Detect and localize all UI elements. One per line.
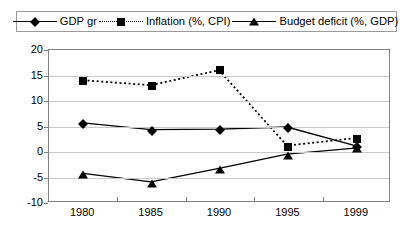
y-axis-label: 10 [3, 94, 43, 106]
chart-container: GDP gr Inflation (%, CPI) Budget deficit… [0, 0, 412, 243]
legend-label-inflation: Inflation (%, CPI) [143, 16, 233, 27]
y-axis-tick [44, 101, 48, 102]
x-axis: 19801985199019951999 [48, 206, 390, 226]
legend-item-gdp-gr[interactable]: GDP gr [13, 12, 99, 31]
legend-item-budget-deficit[interactable]: Budget deficit (%, GDP) [232, 12, 400, 31]
gridline [49, 76, 389, 77]
chart-legend: GDP gr Inflation (%, CPI) Budget deficit… [16, 11, 397, 32]
plot-area [48, 49, 390, 202]
data-point-triangle [215, 165, 225, 173]
x-axis-tick [186, 197, 187, 201]
y-axis-tick [44, 152, 48, 153]
triangle-marker-icon [232, 16, 276, 28]
data-point-triangle [78, 171, 88, 179]
legend-label-gdp-gr: GDP gr [57, 16, 99, 27]
legend-item-inflation[interactable]: Inflation (%, CPI) [99, 12, 233, 31]
data-point-square [353, 135, 361, 143]
x-axis-label: 1980 [70, 206, 94, 218]
diamond-marker-icon [13, 16, 57, 28]
x-axis-tick [323, 197, 324, 201]
y-axis-tick [44, 203, 48, 204]
data-point-triangle [147, 179, 157, 187]
y-axis-label: -5 [3, 171, 43, 183]
data-point-square [284, 143, 292, 151]
data-point-square [148, 82, 156, 90]
y-axis-label: 20 [3, 43, 43, 55]
x-axis-tick [117, 197, 118, 201]
y-axis-tick [44, 76, 48, 77]
gridline [49, 152, 389, 153]
data-point-square [216, 66, 224, 74]
square-marker-icon [99, 16, 143, 28]
y-axis-label: 5 [3, 120, 43, 132]
gridline [49, 178, 389, 179]
y-axis-tick [44, 127, 48, 128]
x-axis-tick [254, 197, 255, 201]
x-axis-label: 1985 [138, 206, 162, 218]
data-point-square [79, 77, 87, 85]
legend-label-budget-deficit: Budget deficit (%, GDP) [276, 16, 400, 27]
gridline [49, 101, 389, 102]
y-axis: 20151050-5-10 [0, 49, 43, 202]
y-axis-tick [44, 50, 48, 51]
data-point-triangle [352, 145, 362, 153]
y-axis-label: -10 [3, 196, 43, 208]
y-axis-tick [44, 178, 48, 179]
data-point-triangle [283, 151, 293, 159]
x-axis-label: 1995 [275, 206, 299, 218]
x-axis-label: 1999 [344, 206, 368, 218]
x-axis-label: 1990 [207, 206, 231, 218]
y-axis-label: 15 [3, 69, 43, 81]
y-axis-label: 0 [3, 145, 43, 157]
